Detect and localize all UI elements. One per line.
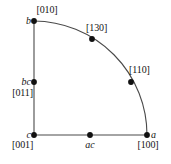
point-b-010[interactable] xyxy=(31,18,37,24)
point-a-100[interactable] xyxy=(144,132,150,138)
point-ac[interactable] xyxy=(87,132,93,138)
point-c-001[interactable] xyxy=(31,132,37,138)
point-130[interactable] xyxy=(89,36,95,42)
point-bc-011[interactable] xyxy=(31,79,37,85)
diagram-canvas xyxy=(0,0,171,164)
point-110[interactable] xyxy=(128,79,134,85)
crystal-direction-figure: [010] b [130] [110] bc [011] c [001] ac … xyxy=(0,0,171,164)
